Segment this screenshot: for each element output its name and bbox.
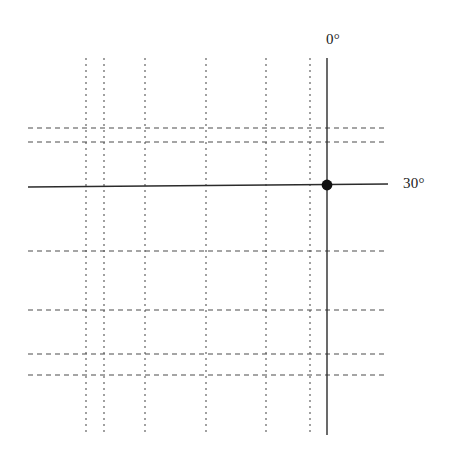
intersection-point-marker xyxy=(322,180,333,191)
angular-grid-diagram xyxy=(0,0,451,460)
zero-degree-label: 0° xyxy=(326,32,340,47)
diagram-background xyxy=(0,0,451,460)
diagram-canvas: 0° 30° xyxy=(0,0,451,460)
thirty-degree-label: 30° xyxy=(403,176,425,191)
